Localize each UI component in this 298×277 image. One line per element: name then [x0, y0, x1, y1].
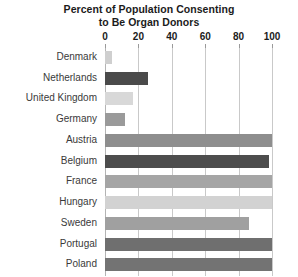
category-label-netherlands: Netherlands: [0, 72, 101, 84]
bar-sweden: [105, 217, 249, 230]
category-label-portugal: Portugal: [0, 238, 101, 250]
bar-row: [105, 152, 272, 173]
bar-row: [105, 214, 272, 235]
y-axis-category-labels: DenmarkNetherlandsUnited KingdomGermanyA…: [0, 48, 101, 276]
x-tick-label-100: 100: [264, 31, 281, 42]
gridline-100: [272, 48, 273, 276]
x-tick-mark-60: [205, 44, 206, 48]
category-label-denmark: Denmark: [0, 51, 101, 63]
category-label-united-kingdom: United Kingdom: [0, 92, 101, 104]
bar-row: [105, 48, 272, 69]
x-tick-mark-20: [138, 44, 139, 48]
bar-netherlands: [105, 72, 148, 85]
x-tick-label-80: 80: [233, 31, 244, 42]
x-tick-mark-80: [239, 44, 240, 48]
bar-row: [105, 89, 272, 110]
x-tick-mark-40: [172, 44, 173, 48]
bar-row: [105, 193, 272, 214]
bar-row: [105, 131, 272, 152]
bar-united-kingdom: [105, 92, 133, 105]
x-tick-label-20: 20: [133, 31, 144, 42]
category-label-france: France: [0, 175, 101, 187]
chart-title: Percent of Population Consenting to Be O…: [0, 3, 298, 28]
x-axis-tick-labels: 020406080100: [0, 31, 298, 44]
x-tick-mark-100: [272, 44, 273, 48]
bar-denmark: [105, 51, 112, 64]
plot-area: [105, 48, 272, 276]
category-label-hungary: Hungary: [0, 196, 101, 208]
bar-chart: Percent of Population Consenting to Be O…: [0, 0, 298, 277]
bar-poland: [105, 258, 272, 271]
bar-row: [105, 235, 272, 256]
chart-title-line-2: to Be Organ Donors: [0, 16, 298, 29]
bar-france: [105, 175, 272, 188]
bar-austria: [105, 134, 272, 147]
category-label-belgium: Belgium: [0, 155, 101, 167]
x-tick-label-0: 0: [102, 31, 108, 42]
bar-germany: [105, 113, 125, 126]
bar-hungary: [105, 196, 272, 209]
bar-row: [105, 110, 272, 131]
bar-belgium: [105, 155, 269, 168]
bar-row: [105, 172, 272, 193]
chart-title-line-1: Percent of Population Consenting: [0, 3, 298, 16]
x-tick-label-40: 40: [166, 31, 177, 42]
bar-row: [105, 69, 272, 90]
bar-row: [105, 255, 272, 276]
category-label-sweden: Sweden: [0, 217, 101, 229]
category-label-germany: Germany: [0, 113, 101, 125]
bar-portugal: [105, 238, 272, 251]
x-tick-mark-0: [105, 44, 106, 48]
category-label-poland: Poland: [0, 258, 101, 270]
x-tick-label-60: 60: [200, 31, 211, 42]
category-label-austria: Austria: [0, 134, 101, 146]
